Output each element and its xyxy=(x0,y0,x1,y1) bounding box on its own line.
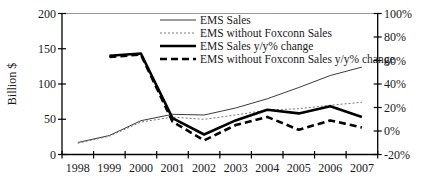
x-axis-year-label: 2005 xyxy=(287,161,311,175)
series-line-thick-dashed xyxy=(109,55,362,141)
left-axis-tick-label: 100 xyxy=(38,77,56,91)
x-axis-year-label: 2006 xyxy=(318,161,342,175)
x-axis-year-label: 1998 xyxy=(66,161,90,175)
left-axis-title: Billion $ xyxy=(5,63,19,105)
right-axis-tick-label: 0% xyxy=(384,124,400,138)
right-axis-tick-label: -20% xyxy=(384,148,410,162)
legend-label: EMS Sales xyxy=(200,14,251,26)
right-axis-tick-label: 80% xyxy=(384,30,406,44)
x-axis-year-label: 2001 xyxy=(160,161,184,175)
x-axis-year-label: 2004 xyxy=(255,161,279,175)
left-axis-tick-label: 50 xyxy=(44,112,56,126)
legend-label: EMS Sales y/y% change xyxy=(200,40,313,53)
x-axis-year-label: 2000 xyxy=(129,161,153,175)
x-axis-year-label: 1999 xyxy=(97,161,121,175)
right-axis-tick-label: 100% xyxy=(384,7,412,21)
right-axis-tick-label: 40% xyxy=(384,77,406,91)
chart-svg: 050100150200-20%0%20%40%60%80%100%199819… xyxy=(0,0,428,184)
left-axis-tick-label: 150 xyxy=(38,42,56,56)
x-axis-year-label: 2002 xyxy=(192,161,216,175)
right-axis-tick-label: 20% xyxy=(384,101,406,115)
x-axis-year-label: 2003 xyxy=(224,161,248,175)
legend-label: EMS without Foxconn Sales xyxy=(200,27,332,39)
legend-label: EMS without Foxconn Sales y/y% change xyxy=(200,53,395,66)
left-axis-tick-label: 0 xyxy=(50,148,56,162)
left-axis-tick-label: 200 xyxy=(38,7,56,21)
x-axis-year-label: 2007 xyxy=(350,161,374,175)
ems-sales-chart: 050100150200-20%0%20%40%60%80%100%199819… xyxy=(0,0,428,184)
